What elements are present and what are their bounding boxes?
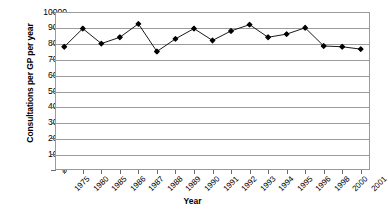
data-point-marker xyxy=(210,38,215,43)
x-axis-tick-label: 1988 xyxy=(166,175,184,193)
y-axis-tick-mark xyxy=(51,170,56,171)
x-axis-tick-label: 1993 xyxy=(259,175,277,193)
x-axis-tick-mark xyxy=(64,170,65,174)
x-axis-tick-mark xyxy=(175,170,176,174)
x-axis-tick-label: 1987 xyxy=(148,175,166,193)
x-axis-tick-mark xyxy=(250,170,251,174)
data-point-marker xyxy=(340,44,345,49)
x-axis-tick-label: 1996 xyxy=(314,175,332,193)
x-axis-tick-label: 1980 xyxy=(92,175,110,193)
x-axis-tick-mark xyxy=(324,170,325,174)
data-series-line xyxy=(55,12,370,170)
x-axis-tick-label: 1990 xyxy=(203,175,221,193)
x-axis-tick-label: 1986 xyxy=(129,175,147,193)
x-axis-tick-label: 1975 xyxy=(73,175,91,193)
x-axis-tick-mark xyxy=(120,170,121,174)
x-axis-tick-mark xyxy=(194,170,195,174)
x-axis-tick-mark xyxy=(213,170,214,174)
x-axis-tick-label: 2000 xyxy=(351,175,369,193)
data-point-marker xyxy=(229,29,234,34)
data-point-marker xyxy=(284,32,289,37)
x-axis-tick-label: 1994 xyxy=(277,175,295,193)
x-axis-tick-mark xyxy=(101,170,102,174)
x-axis-tick-label: 1992 xyxy=(240,175,258,193)
data-point-marker xyxy=(192,26,197,31)
x-axis-tick-label: 1989 xyxy=(185,175,203,193)
x-axis-tick-mark xyxy=(231,170,232,174)
x-axis-title: Year xyxy=(0,196,385,206)
x-axis-tick-label: 1991 xyxy=(222,175,240,193)
x-axis-tick-mark xyxy=(361,170,362,174)
x-axis-tick-mark xyxy=(342,170,343,174)
x-axis-tick-mark xyxy=(157,170,158,174)
x-axis-tick-mark xyxy=(305,170,306,174)
x-axis-tick-mark xyxy=(83,170,84,174)
x-axis-tick-label: 1995 xyxy=(296,175,314,193)
x-axis-tick-mark xyxy=(268,170,269,174)
x-axis-tick-label: 1998 xyxy=(333,175,351,193)
x-axis-tick-label: 1985 xyxy=(111,175,129,193)
x-axis-tick-mark xyxy=(138,170,139,174)
data-point-marker xyxy=(358,47,363,52)
x-axis-tick-label: 2001 xyxy=(370,175,388,193)
x-axis-tick-mark xyxy=(287,170,288,174)
